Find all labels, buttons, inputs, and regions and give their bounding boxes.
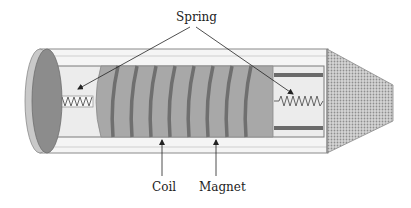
mesh-cone	[327, 49, 393, 153]
magnet-label: Magnet	[199, 180, 246, 194]
harvester-diagram	[0, 0, 411, 208]
lower-guide-bar	[274, 126, 323, 130]
left-end-cap	[25, 49, 62, 153]
upper-guide-bar	[274, 73, 323, 77]
coil-label: Coil	[152, 180, 176, 194]
spring-label: Spring	[176, 10, 217, 24]
